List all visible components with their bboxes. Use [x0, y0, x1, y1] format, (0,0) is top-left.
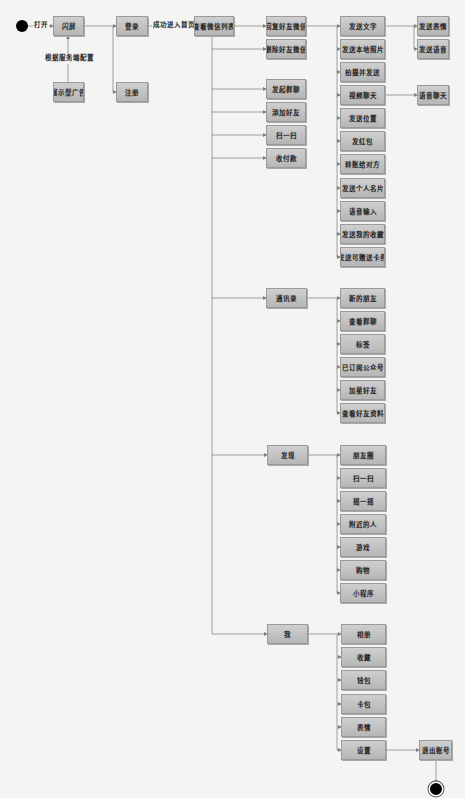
node-reply-friend[interactable]: 回复好友微信 — [266, 16, 306, 36]
node-delete-friend[interactable]: 删除好友微信 — [266, 39, 306, 59]
node-logout[interactable]: 退出账号 — [419, 740, 452, 760]
node-send-text[interactable]: 发送文字 — [340, 16, 385, 36]
node-red-packet[interactable]: 发红包 — [340, 131, 385, 151]
end-node — [430, 783, 442, 795]
node-tags[interactable]: 标签 — [340, 334, 385, 354]
node-voice-chat[interactable]: 语音聊天 — [417, 85, 449, 105]
node-new-friends[interactable]: 新的朋友 — [340, 288, 385, 308]
node-favorites[interactable]: 收藏 — [341, 647, 386, 667]
node-group-chat[interactable]: 发起群聊 — [266, 79, 306, 99]
start-label: 打开 — [33, 21, 49, 30]
node-album[interactable]: 相册 — [341, 624, 386, 644]
node-settings[interactable]: 设置 — [341, 740, 386, 760]
edge-label-server-config: 根据服务端配置 — [44, 54, 95, 63]
node-send-coupon[interactable]: 发送可赠送卡券 — [340, 247, 385, 267]
node-send-card[interactable]: 发送个人名片 — [340, 178, 385, 198]
node-add-friend[interactable]: 添加好友 — [266, 102, 306, 122]
node-shoot-and-send[interactable]: 拍摄并发送 — [340, 62, 385, 82]
node-view-groups[interactable]: 查看群聊 — [340, 311, 385, 331]
node-friend-profile[interactable]: 查看好友资料 — [340, 403, 385, 423]
node-moments[interactable]: 朋友圈 — [340, 445, 386, 465]
node-wallet[interactable]: 钱包 — [341, 670, 386, 690]
node-video-chat[interactable]: 视频聊天 — [340, 85, 385, 105]
node-send-emoji[interactable]: 发送表情 — [417, 16, 449, 36]
start-node — [16, 20, 28, 32]
node-discover[interactable]: 发现 — [267, 445, 308, 465]
node-send-voice[interactable]: 发送语音 — [417, 39, 449, 59]
node-payment[interactable]: 收付款 — [266, 148, 306, 168]
node-discover-scan[interactable]: 扫一扫 — [340, 468, 386, 488]
node-subscribed-accounts[interactable]: 已订阅公众号 — [340, 357, 385, 377]
node-mini-programs[interactable]: 小程序 — [340, 583, 386, 603]
node-register[interactable]: 注册 — [116, 82, 148, 102]
node-stickers[interactable]: 表情 — [341, 717, 386, 737]
node-send-favorites[interactable]: 发送我的收藏 — [340, 224, 385, 244]
node-scan[interactable]: 扫一扫 — [266, 125, 306, 145]
node-transfer[interactable]: 转账给对方 — [340, 154, 385, 174]
node-shake[interactable]: 摇一摇 — [340, 491, 386, 511]
flow-diagram: 打开 闪屏 根据服务端配置 展示型广告 登录 注册 成功进入首页 查看微信列表 … — [0, 0, 465, 798]
node-shopping[interactable]: 购物 — [340, 560, 386, 580]
node-people-nearby[interactable]: 附近的人 — [340, 514, 386, 534]
node-login[interactable]: 登录 — [116, 16, 148, 36]
node-voice-input[interactable]: 语音输入 — [340, 201, 385, 221]
node-games[interactable]: 游戏 — [340, 537, 386, 557]
node-starred-friends[interactable]: 加星好友 — [340, 380, 385, 400]
node-splash[interactable]: 闪屏 — [53, 16, 84, 36]
edge-label-login-success: 成功进入首页 — [152, 21, 196, 30]
node-card-pack[interactable]: 卡包 — [341, 694, 386, 714]
connector-lines — [0, 0, 465, 798]
node-ad[interactable]: 展示型广告 — [53, 82, 84, 102]
node-send-local-photo[interactable]: 发送本地照片 — [340, 39, 385, 59]
node-contacts[interactable]: 通讯录 — [266, 288, 307, 308]
node-chat-list[interactable]: 查看微信列表 — [194, 16, 234, 36]
node-me[interactable]: 我 — [267, 624, 308, 644]
node-send-location[interactable]: 发送位置 — [340, 108, 385, 128]
